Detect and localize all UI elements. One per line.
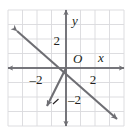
x-axis-label: x <box>97 50 104 65</box>
x-axis-tick-positive-2: 2 <box>90 72 97 87</box>
coordinate-plane-svg: x y O 2 –2 2 –2 <box>0 0 132 136</box>
y-axis-tick-negative-2: –2 <box>67 92 81 107</box>
origin-label: O <box>73 51 83 66</box>
coordinate-plane-figure: x y O 2 –2 2 –2 <box>0 0 132 136</box>
y-axis-tick-positive-2: 2 <box>54 33 61 48</box>
y-axis-label: y <box>70 13 78 28</box>
x-axis-tick-negative-2: –2 <box>29 72 43 87</box>
